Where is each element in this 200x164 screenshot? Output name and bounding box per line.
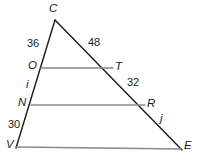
measure-TR: 32	[127, 77, 139, 88]
line-label-j: j	[160, 113, 163, 125]
measure-NV: 30	[8, 119, 20, 130]
segment-right-transversal-CE	[55, 20, 182, 150]
vertex-label-R: R	[147, 98, 155, 110]
vertex-label-V: V	[6, 139, 14, 151]
segment-base-VE	[16, 147, 181, 149]
measure-CT: 48	[88, 37, 100, 48]
measure-CO: 36	[27, 38, 39, 49]
geometry-figure: C O T N R V E 36 48 32 30 i j	[0, 0, 200, 164]
line-label-i: i	[26, 79, 29, 91]
diagram-canvas	[0, 0, 200, 164]
vertex-label-O: O	[28, 60, 37, 72]
vertex-label-C: C	[49, 3, 57, 15]
vertex-label-T: T	[115, 61, 122, 73]
vertex-label-E: E	[184, 140, 192, 152]
vertex-label-N: N	[18, 97, 26, 109]
